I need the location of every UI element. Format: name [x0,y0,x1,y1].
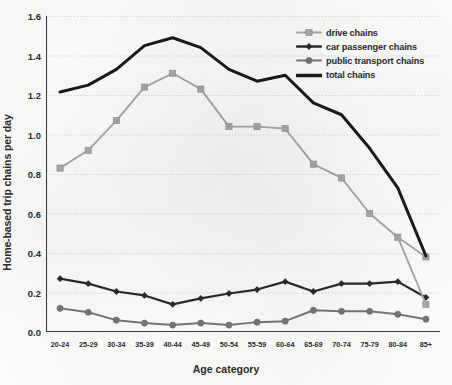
data-point-marker [338,308,344,314]
thick-line-icon [296,70,322,81]
y-axis-tick-labels: 0.00.20.40.60.81.01.21.41.6 [0,0,46,385]
data-point-marker [57,275,64,282]
x-tick-label: 55-59 [248,340,266,349]
legend-item: total chains [296,70,424,81]
x-tick-label: 25-29 [79,340,97,349]
data-point-marker [113,317,119,323]
legend-label: car passenger chains [326,42,417,52]
y-tick-label: 0.4 [28,248,41,259]
data-point-marker [197,295,204,302]
series-drive-chains [57,70,429,260]
data-point-marker [85,309,91,315]
data-point-marker [310,307,316,313]
data-point-marker [367,210,373,216]
data-point-marker [338,175,344,181]
data-point-marker [282,318,288,324]
x-tick-label: 30-34 [107,340,125,349]
data-point-marker [113,288,120,295]
data-point-marker [310,161,316,167]
legend-marker [306,29,312,35]
data-point-marker [170,70,176,76]
data-point-marker [338,280,345,287]
x-tick-label: 45-49 [192,340,210,349]
data-point-marker [198,86,204,92]
legend-label: public transport chains [326,56,424,66]
data-point-marker [57,165,63,171]
x-tick-label: 70-74 [332,340,350,349]
x-tick-label: 40-44 [163,340,181,349]
series-public-transport-chains [57,305,429,328]
x-tick-label: 35-39 [135,340,153,349]
legend-marker [306,58,312,64]
legend-item: drive chains [296,27,424,38]
legend-marker [306,43,313,50]
series-line [60,73,426,257]
y-tick-label: 1.2 [28,90,41,101]
data-point-marker [169,301,176,308]
legend-label: drive chains [326,28,378,38]
y-tick-label: 0.0 [28,327,41,338]
data-point-marker [141,320,147,326]
data-point-marker [226,290,233,297]
data-point-marker [198,320,204,326]
x-tick-label: 75-79 [360,340,378,349]
y-tick-label: 0.8 [28,169,41,180]
data-point-marker [395,311,401,317]
data-point-marker [226,322,232,328]
chart-legend: drive chainscar passenger chainspublic t… [296,27,424,81]
legend-item: public transport chains [296,55,424,66]
x-axis-tick-labels: 20-2425-2930-3435-3940-4445-4950-5455-59… [46,336,440,352]
line-diamond-marker-icon [296,41,322,52]
y-tick-label: 1.6 [28,11,41,22]
data-point-marker [141,84,147,90]
line-chart-figure: Home-based trip chains per day 0.00.20.4… [0,0,452,385]
data-point-marker [423,316,429,322]
data-point-marker [366,280,373,287]
y-tick-label: 1.0 [28,129,41,140]
data-point-marker [282,278,289,285]
y-tick-label: 0.6 [28,208,41,219]
x-tick-label: 50-54 [220,340,238,349]
legend-item: car passenger chains [296,41,424,52]
data-point-marker [367,308,373,314]
data-point-marker [57,305,63,311]
data-point-marker [282,125,288,131]
data-point-marker [310,288,317,295]
x-tick-label: 60-64 [276,340,294,349]
x-tick-label: 20-24 [51,340,69,349]
series-car-passenger-chains [57,275,430,307]
data-point-marker [85,280,92,287]
data-point-marker [254,286,261,293]
line-square-marker-icon [296,27,322,38]
data-point-marker [226,124,232,130]
data-point-marker [113,118,119,124]
x-tick-label: 65-69 [304,340,322,349]
data-point-marker [254,319,260,325]
x-tick-label: 80-84 [389,340,407,349]
x-axis-title: Age category [0,363,452,375]
x-tick-label: 85+ [420,340,432,349]
y-tick-label: 0.2 [28,287,41,298]
data-point-marker [254,124,260,130]
data-point-marker [423,301,429,307]
line-circle-marker-icon [296,55,322,66]
legend-label: total chains [326,70,375,80]
data-point-marker [170,322,176,328]
data-point-marker [85,147,91,153]
y-tick-label: 1.4 [28,50,41,61]
